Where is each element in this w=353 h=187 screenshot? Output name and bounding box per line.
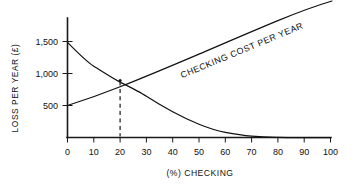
loss-vs-checking-chart: 1,500 1,000 500 0 10 20 30 40 50 60 70 8… [0,0,353,187]
x-tick-label-100: 100 [323,147,338,157]
x-tick-label-0: 0 [65,147,70,157]
x-tick-label-40: 40 [168,147,178,157]
x-tick-label-30: 30 [141,147,151,157]
x-tick-label-90: 90 [299,147,309,157]
y-tick-label-500: 500 [43,101,58,111]
y-tick-label-1500: 1,500 [35,37,58,47]
x-tick-label-10: 10 [89,147,99,157]
loss-per-year-curve [68,42,331,137]
y-axis-title: LOSS PER YEAR (£) [10,44,20,133]
x-tick-label-20: 20 [115,147,125,157]
checking-cost-curve [68,1,333,106]
x-tick-label-70: 70 [247,147,257,157]
x-axis-title: (%) CHECKING [166,168,233,178]
checking-cost-series-label: CHECKING COST PER YEAR [179,20,305,80]
x-tick-label-60: 60 [220,147,230,157]
x-tick-label-80: 80 [273,147,283,157]
chart-canvas: 1,500 1,000 500 0 10 20 30 40 50 60 70 8… [0,0,353,187]
y-tick-label-1000: 1,000 [35,69,58,79]
x-tick-label-50: 50 [194,147,204,157]
